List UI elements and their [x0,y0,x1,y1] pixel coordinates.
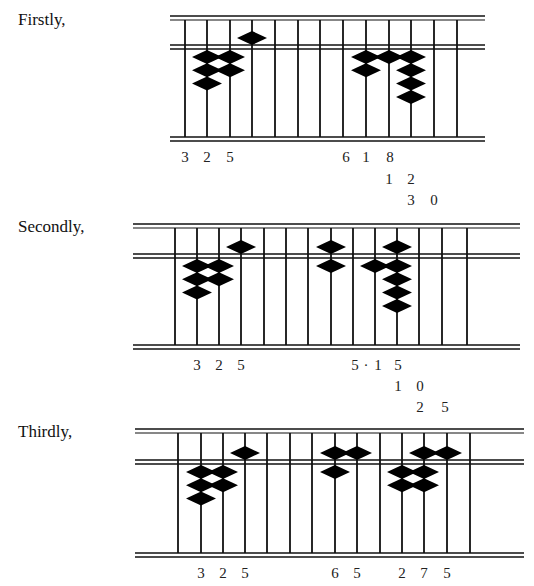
lower-bead [215,50,245,64]
digit-label: 1 [374,357,382,373]
lower-bead [409,465,439,479]
upper-bead [237,31,267,45]
digit-label: 6 [342,149,350,165]
upper-bead [226,240,256,254]
lower-bead [351,63,381,77]
lower-bead [186,492,216,506]
upper-bead [230,446,260,460]
digit-label: 2 [407,171,415,187]
lower-bead [204,259,234,273]
digit-label: 2 [203,149,211,165]
digit-label: 6 [331,565,339,581]
digit-label: 5 [394,357,402,373]
digit-label: 3 [193,357,201,373]
abacus: 3256181230 [170,16,485,208]
digit-label: 1 [385,171,393,187]
lower-bead [204,272,234,286]
digit-label: 5 [353,565,361,581]
digit-label: 0 [430,192,438,208]
lower-bead [396,63,426,77]
lower-bead [396,50,426,64]
digit-label: 5 [443,565,451,581]
digit-label: 3 [407,192,415,208]
lower-bead [409,478,439,492]
lower-bead [192,77,222,91]
digit-label: 3 [181,149,189,165]
lower-bead [382,286,412,300]
digit-label: 2 [215,357,223,373]
digit-label: 3 [197,565,205,581]
abacus: 32565275 [135,429,524,581]
lower-bead [316,259,346,273]
digit-label: 7 [420,565,428,581]
digit-label: 1 [394,378,402,394]
upper-bead [382,240,412,254]
lower-bead [396,90,426,104]
upper-bead [342,446,372,460]
digit-label: 2 [398,565,406,581]
digit-label: 2 [416,399,424,415]
upper-bead [316,240,346,254]
digit-label: 0 [416,378,424,394]
lower-bead [208,465,238,479]
lower-bead [382,259,412,273]
lower-bead [396,77,426,91]
digit-label: 8 [386,149,394,165]
digit-label: 5 [441,399,449,415]
digit-label: 1 [362,149,370,165]
lower-bead [215,63,245,77]
digit-label: 5 [241,565,249,581]
digit-label: · [364,357,369,373]
upper-bead [432,446,462,460]
lower-bead [382,299,412,313]
lower-bead [182,286,212,300]
digit-label: 5 [351,357,359,373]
abacus: 3255·151025 [133,224,520,415]
digit-label: 5 [226,149,234,165]
lower-bead [208,478,238,492]
lower-bead [320,465,350,479]
digit-label: 2 [219,565,227,581]
lower-bead [382,272,412,286]
digit-label: 5 [237,357,245,373]
abacus-diagrams: 32561812303255·15102532565275 [0,0,534,586]
